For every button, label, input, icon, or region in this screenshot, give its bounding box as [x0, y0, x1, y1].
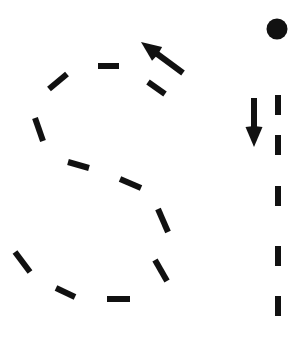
filled-dot: [267, 19, 288, 40]
figure-canvas: [0, 0, 304, 340]
trajectory-diagram: [0, 0, 304, 340]
marker-group: [267, 19, 288, 40]
